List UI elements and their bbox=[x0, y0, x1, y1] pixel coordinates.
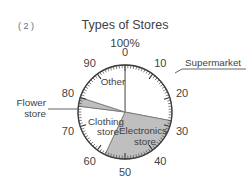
axis-tick-label-80: 80 bbox=[62, 87, 74, 99]
slice-label-flower-line2: store bbox=[24, 108, 46, 119]
chart-title: Types of Stores bbox=[82, 18, 169, 32]
axis-tick-label-40: 40 bbox=[154, 155, 166, 167]
figure-number-label: ( 2 ) bbox=[18, 21, 34, 31]
pie-chart-svg: ( 2 ) Types of Stores 100% 0102030405060… bbox=[0, 0, 250, 187]
slice-label-supermarket: Supermarket bbox=[185, 57, 241, 68]
axis-tick-label-90: 90 bbox=[84, 57, 96, 69]
slice-label-electronics-line1: Electronics bbox=[119, 125, 167, 136]
figure-container: ( 2 ) Types of Stores 100% 0102030405060… bbox=[0, 0, 250, 187]
supermarket-leader-line bbox=[175, 69, 246, 73]
axis-tick-label-60: 60 bbox=[84, 155, 96, 167]
slice-label-electronics-line2: store bbox=[134, 136, 156, 147]
slice-label-other: Other bbox=[101, 76, 126, 87]
axis-tick-label-30: 30 bbox=[176, 125, 188, 137]
axis-tick-label-70: 70 bbox=[62, 125, 74, 137]
axis-tick-label-20: 20 bbox=[176, 87, 188, 99]
axis-tick-label-10: 10 bbox=[154, 57, 166, 69]
slice-label-clothing-line2: store bbox=[97, 126, 119, 137]
axis-tick-label-0: 0 bbox=[122, 46, 128, 58]
axis-tick-label-50: 50 bbox=[119, 166, 131, 178]
slice-label-flower-line1: Flower bbox=[17, 97, 47, 108]
